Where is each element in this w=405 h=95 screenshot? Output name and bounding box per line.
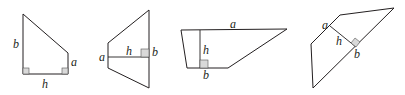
label-a: a <box>71 55 77 69</box>
right-angle-marker <box>351 38 360 47</box>
figure-4: a h b <box>311 8 394 88</box>
figure-1: b a h <box>13 14 77 91</box>
label-a: a <box>230 17 236 31</box>
right-angle-marker <box>62 68 68 74</box>
right-angle-marker <box>200 60 208 68</box>
label-h: h <box>126 44 132 58</box>
label-a: a <box>99 50 105 64</box>
trapezoid-figures: b a h a h b a h b a h b <box>0 0 405 95</box>
right-angle-marker <box>141 49 149 57</box>
figure-2: a h b <box>99 10 158 88</box>
label-b: b <box>152 45 158 59</box>
label-b: b <box>13 37 19 51</box>
label-a: a <box>322 18 328 32</box>
label-b: b <box>203 68 209 82</box>
figure-3: a h b <box>181 17 287 82</box>
right-angle-marker <box>23 68 29 74</box>
label-h: h <box>336 34 342 48</box>
trapezoid-1-outline <box>23 14 68 74</box>
label-h: h <box>42 77 48 91</box>
label-h: h <box>203 43 209 57</box>
trapezoid-3-outline <box>181 29 287 68</box>
label-b: b <box>354 47 360 61</box>
